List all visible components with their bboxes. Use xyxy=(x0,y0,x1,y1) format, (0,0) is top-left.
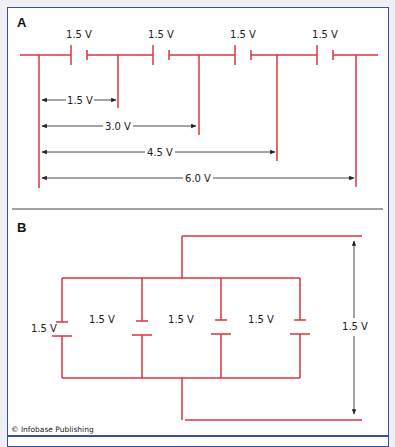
battery-cell-icon xyxy=(153,45,169,65)
series-voltage-label: 1.5 V xyxy=(67,95,93,106)
cell-voltage-label: 1.5 V xyxy=(230,29,256,40)
cell-voltage-label: 1.5 V xyxy=(312,29,338,40)
cell-voltage-label: 1.5 V xyxy=(31,323,57,334)
cell-voltage-label: 1.5 V xyxy=(168,314,194,325)
circuit-diagram: A 1.5 V 1.5 V 1.5 V 1.5 xyxy=(0,0,395,447)
panel-a-label: A xyxy=(17,15,27,30)
parallel-voltage-label: 1.5 V xyxy=(342,321,368,332)
series-voltage-label: 4.5 V xyxy=(147,147,173,158)
cell-voltage-label: 1.5 V xyxy=(89,314,115,325)
parallel-circuit xyxy=(52,236,362,420)
panel-b-label: B xyxy=(17,220,26,235)
cell-voltage-label: 1.5 V xyxy=(66,29,92,40)
series-voltage-label: 3.0 V xyxy=(105,121,131,132)
cell-voltage-label: 1.5 V xyxy=(148,29,174,40)
battery-cell-icon xyxy=(290,320,310,334)
battery-cell-icon xyxy=(71,45,87,65)
cell-voltage-label: 1.5 V xyxy=(248,314,274,325)
series-circuit xyxy=(20,45,378,188)
copyright-credit: © Infobase Publishing xyxy=(11,425,94,434)
battery-cell-icon xyxy=(235,45,251,65)
series-voltage-label: 6.0 V xyxy=(185,173,211,184)
battery-cell-icon xyxy=(317,45,333,65)
battery-cell-icon xyxy=(132,321,152,335)
battery-cell-icon xyxy=(211,320,231,334)
